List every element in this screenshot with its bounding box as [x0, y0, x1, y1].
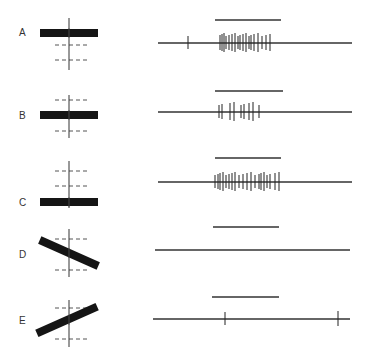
stimulus-bar	[35, 303, 99, 337]
figure-canvas	[0, 0, 369, 364]
stimulus-bar-orientation	[35, 303, 99, 337]
